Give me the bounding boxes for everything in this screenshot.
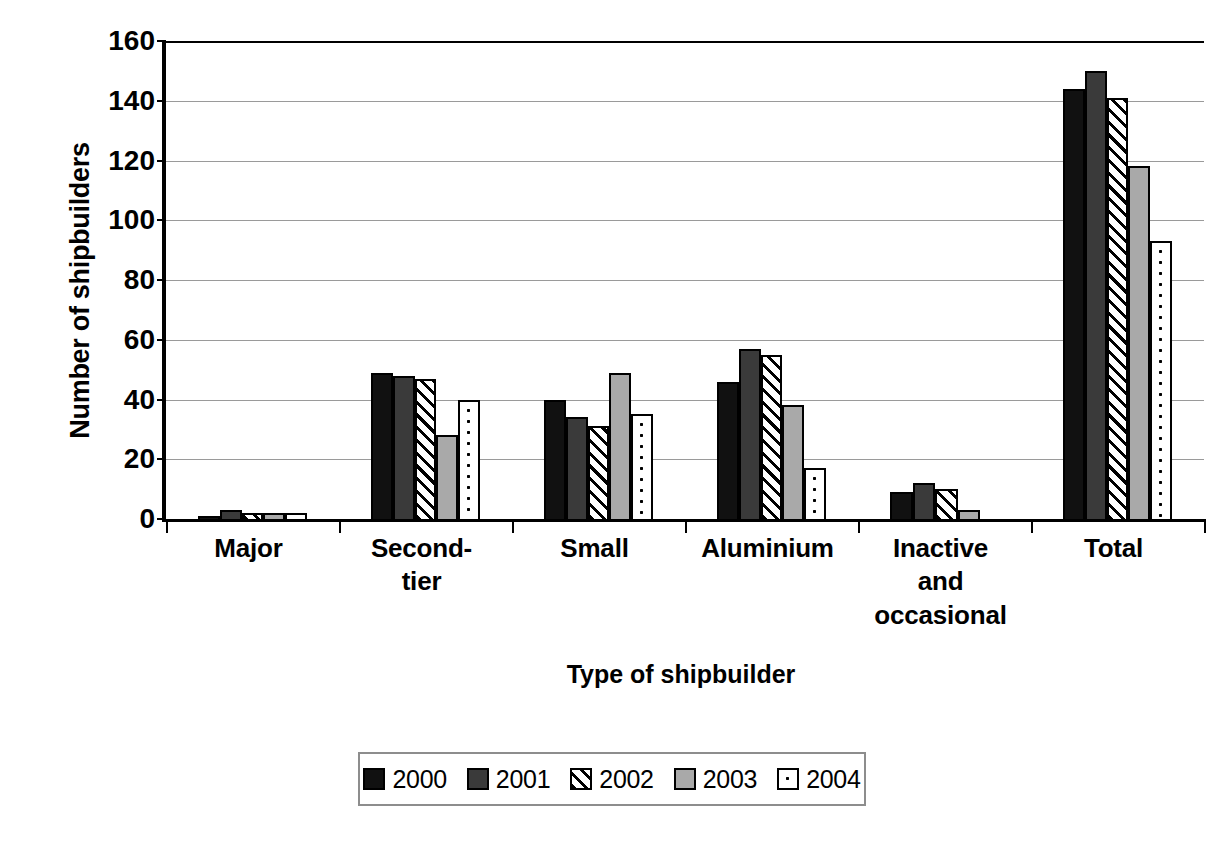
legend-swatch-2001: [467, 768, 489, 790]
bar: [371, 373, 393, 519]
x-axis-label-line: Aluminium: [681, 532, 854, 565]
bar: [1085, 71, 1107, 519]
bar: [804, 468, 826, 519]
y-tick-label-160: 160: [108, 25, 155, 57]
bar: [285, 513, 307, 519]
x-axis-label-line: Major: [162, 532, 335, 565]
bars: [1063, 41, 1172, 519]
legend-label-2000: 2000: [392, 765, 446, 794]
bar: [436, 435, 458, 519]
bars: [544, 41, 653, 519]
y-tick-mark-140: [157, 100, 166, 102]
x-axis-separator: [512, 519, 514, 533]
y-tick-label-60: 60: [124, 324, 155, 356]
bar: [717, 382, 739, 519]
x-axis-label-aluminium: Aluminium: [681, 532, 854, 632]
x-axis-label-line: Small: [508, 532, 681, 565]
bar: [913, 483, 936, 519]
x-axis-label-small: Small: [508, 532, 681, 632]
bar: [890, 492, 913, 519]
x-axis-label-line: Inactive: [854, 532, 1027, 565]
y-tick-mark-0: [157, 518, 166, 520]
x-axis-label-line: and: [854, 565, 1027, 598]
y-tick-mark-60: [157, 339, 166, 341]
bar-groups: [166, 41, 1204, 519]
bar-group: [339, 41, 512, 519]
y-tick-mark-120: [157, 160, 166, 162]
y-tick-mark-80: [157, 279, 166, 281]
x-axis-separator: [858, 519, 860, 533]
y-tick-mark-160: [157, 40, 166, 42]
y-tick-label-80: 80: [124, 264, 155, 296]
x-axis-separator: [685, 519, 687, 533]
y-tick-label-40: 40: [124, 384, 155, 416]
legend-item-2001[interactable]: 2001: [467, 765, 550, 794]
bar: [609, 373, 631, 519]
bar: [588, 426, 610, 519]
x-axis-separator: [166, 519, 168, 533]
bar: [566, 417, 588, 519]
bar: [1150, 241, 1172, 519]
bar-group: [685, 41, 858, 519]
y-tick-label-0: 0: [139, 503, 155, 535]
legend-swatch-2003: [674, 768, 696, 790]
y-tick-label-100: 100: [108, 204, 155, 236]
bar: [1107, 98, 1129, 519]
bars: [198, 41, 307, 519]
bar: [782, 405, 804, 519]
legend-item-2003[interactable]: 2003: [674, 765, 757, 794]
bar: [393, 376, 415, 519]
bar: [958, 510, 981, 519]
bar: [739, 349, 761, 519]
y-tick-label-140: 140: [108, 85, 155, 117]
x-axis-label-inactive-and-occasional: Inactiveandoccasional: [854, 532, 1027, 632]
x-axis-separator: [1204, 519, 1206, 533]
y-tick-mark-100: [157, 219, 166, 221]
bar: [1063, 89, 1085, 519]
legend-swatch-2000: [363, 768, 385, 790]
x-axis-label-second-tier: Second-tier: [335, 532, 508, 632]
bar: [935, 489, 958, 519]
x-axis-label-line: occasional: [854, 599, 1027, 632]
legend-item-2004[interactable]: 2004: [777, 765, 860, 794]
bars: [371, 41, 480, 519]
x-axis-separator: [1031, 519, 1033, 533]
y-tick-label-120: 120: [108, 145, 155, 177]
bar: [415, 379, 437, 519]
legend-item-2000[interactable]: 2000: [363, 765, 446, 794]
legend-swatch-2004: [777, 768, 799, 790]
bars: [717, 41, 826, 519]
bar-group: [858, 41, 1031, 519]
legend-swatch-2002: [570, 768, 592, 790]
legend-label-2003: 2003: [703, 765, 757, 794]
legend-label-2001: 2001: [496, 765, 550, 794]
bars: [890, 41, 999, 519]
bar-group: [1031, 41, 1204, 519]
bar: [198, 516, 220, 519]
x-axis-category-labels: MajorSecond-tierSmallAluminiumInactivean…: [162, 532, 1200, 632]
bar: [242, 513, 264, 519]
y-axis-title: Number of shipbuilders: [65, 31, 96, 551]
legend-item-2002[interactable]: 2002: [570, 765, 653, 794]
legend-label-2002: 2002: [599, 765, 653, 794]
y-tick-label-20: 20: [124, 443, 155, 475]
x-axis-separator: [339, 519, 341, 533]
bar: [220, 510, 242, 519]
x-axis-label-line: Second-: [335, 532, 508, 565]
y-tick-mark-20: [157, 458, 166, 460]
plot-area: 020406080100120140160: [162, 41, 1204, 522]
bar: [631, 414, 653, 519]
x-axis-label-total: Total: [1027, 532, 1200, 632]
bar-chart-figure: Number of shipbuilders 02040608010012014…: [0, 0, 1225, 854]
bar: [1128, 166, 1150, 519]
x-axis-title: Type of shipbuilder: [162, 660, 1200, 689]
x-axis-label-major: Major: [162, 532, 335, 632]
bar: [263, 513, 285, 519]
x-axis-label-line: Total: [1027, 532, 1200, 565]
bar: [458, 400, 480, 520]
bar: [761, 355, 783, 519]
x-axis-label-line: tier: [335, 565, 508, 598]
bar: [544, 400, 566, 520]
bar-group: [512, 41, 685, 519]
bar-group: [166, 41, 339, 519]
